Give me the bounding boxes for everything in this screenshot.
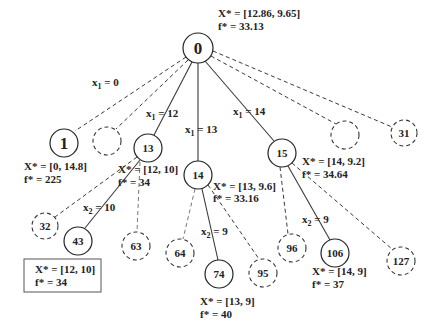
optimal-x-star: X* = [12, 10] — [35, 263, 95, 275]
node-95-label: 95 — [258, 267, 270, 279]
root-x-star: X* = [12.86, 9.65] — [218, 7, 300, 19]
node-106-label: 106 — [327, 247, 344, 259]
node-95: 95 — [249, 259, 277, 287]
node-14-label: 14 — [193, 169, 205, 181]
edge-label-x2-9-a: x2 = 9 — [201, 225, 228, 240]
edge-label-x2-9-b: x2 = 9 — [302, 213, 329, 228]
node-31: 31 — [391, 120, 417, 146]
node-13: 13 — [134, 134, 162, 162]
node-13-label: 13 — [143, 142, 155, 154]
node-0-label: 0 — [194, 39, 203, 58]
node-32-label: 32 — [40, 220, 52, 232]
node-empty-right-circle — [331, 121, 359, 149]
node-127-label: 127 — [393, 255, 410, 267]
node-0: 0 — [183, 33, 213, 63]
node-1-f-star: f* = 225 — [24, 173, 62, 185]
root-f-star: f* = 33.13 — [218, 20, 264, 32]
node-1-x-star: X* = [0, 14.8] — [24, 160, 87, 172]
node-empty-left — [93, 127, 121, 155]
node-64-label: 64 — [175, 247, 187, 259]
node-64: 64 — [166, 239, 194, 267]
node-96: 96 — [278, 234, 306, 262]
edge-label-x1-13: x1 = 13 — [185, 123, 218, 138]
node-96-label: 96 — [287, 242, 299, 254]
node-1: 1 — [50, 129, 78, 157]
node-15-f-star: f* = 34.64 — [302, 168, 348, 180]
node-106-f-star: f* = 37 — [312, 278, 344, 290]
node-empty-left-circle — [93, 127, 121, 155]
node-31-label: 31 — [399, 127, 410, 139]
edge-label-x1-0: x1 = 0 — [92, 76, 119, 91]
branch-and-bound-tree: 0 X* = [12.86, 9.65] f* = 33.13 x1 = 0 x… — [0, 0, 439, 334]
optimal-f-star: f* = 34 — [35, 276, 67, 288]
edge-15-96 — [280, 167, 288, 234]
node-13-f-star: f* = 34 — [118, 176, 150, 188]
node-74-label: 74 — [214, 268, 226, 280]
edge-14-64 — [183, 189, 195, 239]
edge-label-x1-14: x1 = 14 — [233, 105, 266, 120]
node-15-label: 15 — [277, 147, 289, 159]
node-empty-right — [331, 121, 359, 149]
edge-0-1 — [75, 57, 186, 131]
node-43-label: 43 — [73, 235, 85, 247]
node-15-x-star: X* = [14, 9.2] — [302, 155, 365, 167]
node-106: 106 — [321, 239, 349, 267]
node-106-x-star: X* = [14, 9] — [312, 265, 367, 277]
node-43: 43 — [64, 227, 92, 255]
node-74-f-star: f* = 40 — [200, 308, 232, 320]
node-74-x-star: X* = [13, 9] — [200, 295, 255, 307]
node-63-label: 63 — [131, 240, 143, 252]
node-1-label: 1 — [60, 134, 69, 153]
node-74: 74 — [205, 260, 233, 288]
node-63: 63 — [122, 232, 150, 260]
node-14-x-star: X* = [13, 9.6] — [213, 180, 276, 192]
node-14: 14 — [184, 161, 212, 189]
optimal-solution-box: X* = [12, 10] f* = 34 — [24, 259, 101, 292]
node-14-f-star: f* = 33.16 — [213, 192, 259, 204]
node-13-x-star: X* = [12, 10] — [118, 163, 178, 175]
node-127: 127 — [387, 247, 415, 275]
node-32: 32 — [32, 213, 58, 239]
node-15: 15 — [268, 139, 296, 167]
edge-label-x2-10: x2 = 10 — [83, 201, 116, 216]
